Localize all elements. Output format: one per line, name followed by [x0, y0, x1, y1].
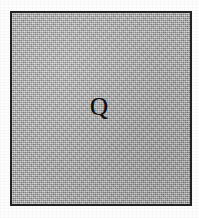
scanned-page: Q	[0, 0, 199, 218]
region-label-q: Q	[90, 94, 108, 119]
figure-square-region: Q	[10, 11, 192, 206]
